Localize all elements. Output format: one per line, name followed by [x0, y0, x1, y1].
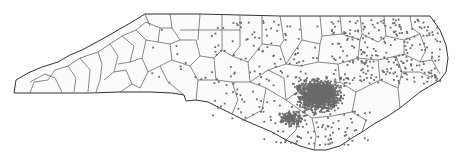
north-carolina-county-map	[0, 0, 460, 160]
map-container	[0, 0, 460, 160]
